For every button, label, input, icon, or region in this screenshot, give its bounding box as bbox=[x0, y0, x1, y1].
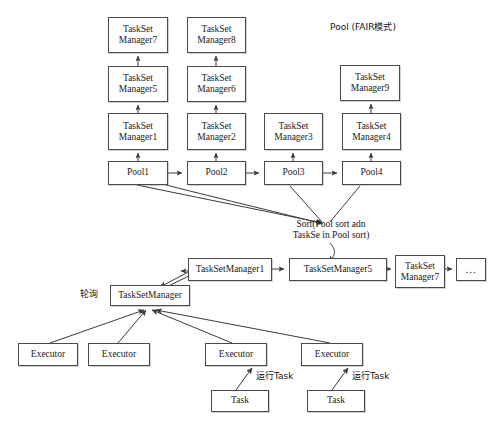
taskset-manager-3[interactable]: TaskSet Manager3 bbox=[264, 113, 323, 150]
edge-task1-to-executor3 bbox=[236, 368, 252, 390]
executor-3[interactable]: Executor bbox=[205, 343, 267, 366]
taskset-manager-7[interactable]: TaskSet Manager7 bbox=[108, 17, 168, 53]
edge-executor3-to-scheduler bbox=[152, 310, 232, 343]
executor-2[interactable]: Executor bbox=[88, 343, 150, 366]
sort-annotation: Sort(Pool sort adn TaskSe in Pool sort) bbox=[272, 219, 390, 241]
taskset-manager-9[interactable]: TaskSet Manager9 bbox=[340, 65, 400, 101]
active-taskset-manager[interactable]: TaskSetManager bbox=[110, 285, 190, 306]
task-1[interactable]: Task bbox=[211, 390, 269, 412]
queue-taskset-manager-5[interactable]: TaskSetManager5 bbox=[289, 258, 387, 281]
edge-pool1-to-sort bbox=[137, 185, 322, 223]
queue-more[interactable]: ... bbox=[456, 258, 486, 281]
edge-pool3-to-sort bbox=[290, 186, 322, 222]
edge-task2-to-executor4 bbox=[332, 368, 348, 390]
diagram-edges bbox=[0, 0, 494, 436]
diagram-canvas: Pool (FAIR模式) TaskSet Manager7 TaskSet M… bbox=[0, 0, 494, 436]
queue-taskset-manager-1[interactable]: TaskSetManager1 bbox=[188, 258, 272, 281]
run-task-label-1: 运行Task bbox=[256, 371, 314, 382]
pool-2[interactable]: Pool2 bbox=[187, 161, 246, 185]
pool-4[interactable]: Pool4 bbox=[342, 161, 401, 185]
taskset-manager-8[interactable]: TaskSet Manager8 bbox=[187, 17, 246, 53]
queue-taskset-manager-7[interactable]: TaskSet Manager7 bbox=[395, 255, 445, 288]
executor-4[interactable]: Executor bbox=[301, 343, 363, 366]
taskset-manager-4[interactable]: TaskSet Manager4 bbox=[342, 113, 401, 150]
taskset-manager-6[interactable]: TaskSet Manager6 bbox=[187, 66, 246, 102]
edge-executor4-to-scheduler bbox=[156, 310, 330, 343]
pool-1[interactable]: Pool1 bbox=[108, 161, 168, 185]
pool-mode-title: Pool (FAIR模式) bbox=[308, 22, 418, 33]
edge-pool4-to-sort bbox=[330, 186, 360, 222]
executor-1[interactable]: Executor bbox=[18, 343, 78, 366]
run-task-label-2: 运行Task bbox=[352, 371, 410, 382]
taskset-manager-2[interactable]: TaskSet Manager2 bbox=[187, 113, 246, 150]
taskset-manager-5[interactable]: TaskSet Manager5 bbox=[108, 66, 168, 102]
pool-3[interactable]: Pool3 bbox=[264, 161, 323, 185]
taskset-manager-1[interactable]: TaskSet Manager1 bbox=[108, 113, 168, 150]
edge-executor1-to-scheduler bbox=[50, 310, 144, 343]
edge-executor2-to-scheduler bbox=[118, 310, 146, 343]
task-2[interactable]: Task bbox=[307, 390, 365, 412]
polling-label: 轮询 bbox=[74, 289, 104, 300]
